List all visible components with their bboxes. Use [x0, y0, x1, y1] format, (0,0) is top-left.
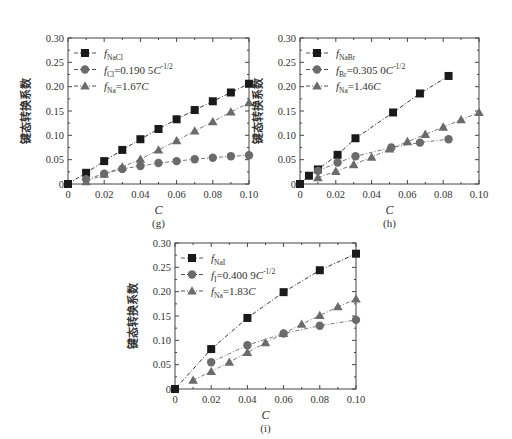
x-tick-label: 0.04 [238, 394, 257, 405]
x-tick-label: 0.02 [202, 394, 220, 405]
fit-line [193, 299, 356, 380]
y-tick-label: 0.15 [153, 311, 171, 322]
data-point-square [280, 288, 288, 296]
x-tick-label: 0.06 [274, 394, 292, 405]
legend-label: fNa=1.83C [211, 285, 256, 300]
data-point-square [352, 250, 360, 258]
legend-label: fI=0.400 9C-1/2 [211, 267, 275, 284]
data-point-square [207, 345, 215, 353]
data-point-triangle [297, 319, 307, 327]
plot-frame [175, 243, 356, 389]
y-tick-label: 0.30 [153, 238, 171, 249]
data-point-square [171, 385, 179, 393]
data-point-square [243, 314, 251, 322]
data-point-triangle [243, 348, 253, 356]
data-point-triangle [225, 357, 235, 365]
y-tick-label: 0.25 [153, 262, 171, 273]
x-tick-label: 0.08 [311, 394, 329, 405]
data-point-triangle [261, 338, 271, 346]
y-tick-label: 0 [166, 384, 171, 395]
legend-label: fNaI [211, 252, 226, 267]
y-tick-label: 0.10 [153, 335, 171, 346]
data-point-circle [316, 322, 324, 330]
data-point-triangle [206, 367, 216, 375]
data-point-circle [352, 316, 360, 324]
x-tick-label: 0.10 [347, 394, 365, 405]
fit-line [211, 320, 356, 362]
y-tick-label: 0.20 [153, 286, 171, 297]
x-axis-label: C [261, 408, 270, 422]
data-point-triangle [333, 302, 343, 310]
data-point-square [316, 266, 324, 274]
legend-marker-triangle [187, 286, 197, 294]
legend-marker-square [188, 254, 196, 262]
data-point-triangle [351, 294, 361, 302]
y-tick-label: 0.05 [153, 359, 171, 370]
data-point-triangle [188, 375, 198, 383]
y-axis-label: 键态转换系数 [126, 282, 140, 350]
panel-label: (i) [260, 422, 271, 435]
legend-marker-circle [188, 270, 196, 278]
data-point-circle [207, 358, 215, 366]
data-point-triangle [315, 311, 325, 319]
x-tick-label: 0 [172, 394, 177, 405]
chart-i-svg: 00.020.040.060.080.1000.050.100.150.200.… [0, 0, 512, 439]
